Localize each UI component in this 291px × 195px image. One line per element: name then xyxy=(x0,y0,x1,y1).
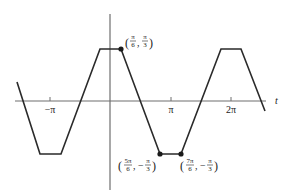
point-5pi6-neg-pi3 xyxy=(157,151,162,156)
svg-text:(: ( xyxy=(125,36,129,50)
label-point-pi6-pi3: ( π 6 , π 3 ) xyxy=(125,33,153,50)
svg-text:, −: , − xyxy=(195,160,206,171)
svg-text:3: 3 xyxy=(146,165,150,173)
trapezoid-wave-chart: −π π 2π t ( π 6 , π 3 ) ( 5π 6 , − π 3 )… xyxy=(0,0,291,195)
svg-text:6: 6 xyxy=(131,41,135,49)
svg-text:π: π xyxy=(208,157,212,165)
svg-text:6: 6 xyxy=(188,165,192,173)
svg-text:): ) xyxy=(152,159,156,173)
svg-text:5π: 5π xyxy=(124,157,132,165)
svg-text:π: π xyxy=(143,33,147,41)
svg-text:7π: 7π xyxy=(186,157,194,165)
svg-text:π: π xyxy=(131,33,135,41)
svg-text:): ) xyxy=(214,159,218,173)
point-pi6-pi3 xyxy=(118,46,123,51)
svg-text:): ) xyxy=(149,36,153,50)
svg-text:,: , xyxy=(137,37,140,48)
tick-label-pi: π xyxy=(168,104,173,115)
svg-text:π: π xyxy=(146,157,150,165)
axis-label-t: t xyxy=(275,95,278,106)
svg-text:6: 6 xyxy=(126,165,130,173)
svg-text:3: 3 xyxy=(143,41,147,49)
tick-label-neg-pi: −π xyxy=(45,104,56,115)
svg-text:(: ( xyxy=(180,159,184,173)
label-point-7pi6-neg-pi3: ( 7π 6 , − π 3 ) xyxy=(180,157,218,173)
svg-text:3: 3 xyxy=(208,165,212,173)
svg-text:, −: , − xyxy=(133,160,144,171)
label-point-5pi6-neg-pi3: ( 5π 6 , − π 3 ) xyxy=(118,157,156,173)
svg-text:(: ( xyxy=(118,159,122,173)
point-7pi6-neg-pi3 xyxy=(178,151,183,156)
tick-label-2pi: 2π xyxy=(226,104,236,115)
